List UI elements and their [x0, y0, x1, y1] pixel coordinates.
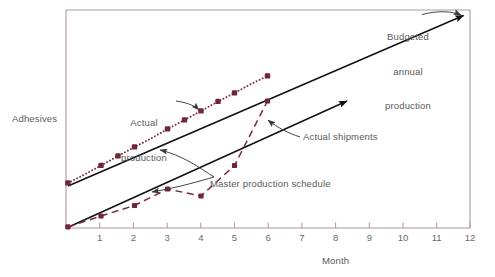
annotation-actual-production: Actual production — [116, 94, 172, 186]
annotation-actual-shipments: Actual shipments — [303, 131, 378, 143]
x-tick-label-6: 6 — [259, 232, 277, 243]
x-tick-label-9: 9 — [360, 232, 378, 243]
x-tick-label-2: 2 — [124, 232, 142, 243]
annotation-actual-production-line-2: production — [116, 152, 172, 164]
annotation-budgeted-line-2: annual — [369, 66, 447, 78]
x-tick-label-5: 5 — [226, 232, 244, 243]
x-axis-ticks — [100, 223, 470, 229]
annotation-budgeted-line-3: production — [369, 100, 447, 112]
x-tick-label-8: 8 — [327, 232, 345, 243]
annotation-budgeted-line-1: Budgeted — [369, 31, 447, 43]
x-tick-label-3: 3 — [158, 232, 176, 243]
series-master-production-schedule — [68, 101, 348, 228]
x-tick-label-4: 4 — [192, 232, 210, 243]
annotation-master-production-schedule: Master production schedule — [210, 178, 331, 190]
x-tick-label-1: 1 — [91, 232, 109, 243]
x-tick-label-7: 7 — [293, 232, 311, 243]
x-tick-label-11: 11 — [428, 232, 446, 243]
annotation-budgeted-annual-production: Budgeted annual production — [369, 8, 447, 135]
chart-root: Adhesives Month 1 2 3 4 5 6 7 8 9 10 11 … — [0, 0, 495, 277]
annotation-actual-production-line-1: Actual — [116, 117, 172, 129]
x-tick-label-12: 12 — [461, 232, 479, 243]
x-tick-label-10: 10 — [394, 232, 412, 243]
y-axis-label: Adhesives — [12, 113, 57, 125]
x-axis-label: Month — [322, 255, 349, 267]
